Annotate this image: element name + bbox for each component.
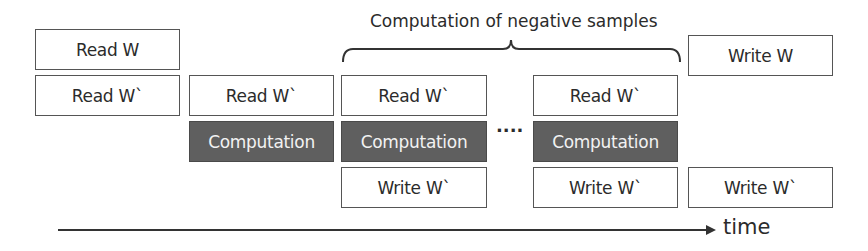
arrow-head-icon (706, 225, 716, 235)
block-read-w-prime: Read W` (189, 75, 334, 116)
block-write-w: Write W (688, 35, 833, 76)
brace (343, 40, 680, 62)
block-computation: Computation (341, 121, 487, 162)
block-write-w-prime: Write W` (688, 167, 833, 208)
block-read-w: Read W (35, 29, 180, 70)
block-computation: Computation (533, 121, 678, 162)
block-computation: Computation (189, 121, 334, 162)
block-read-w-prime: Read W` (341, 75, 487, 116)
block-write-w-prime: Write W` (533, 167, 678, 208)
block-read-w-prime: Read W` (533, 75, 678, 116)
ellipsis-dots: ···· (496, 120, 523, 141)
brace-title: Computation of negative samples (370, 11, 658, 31)
block-read-w-prime: Read W` (35, 75, 180, 116)
block-write-w-prime: Write W` (341, 167, 487, 208)
time-axis-label: time (723, 215, 770, 239)
